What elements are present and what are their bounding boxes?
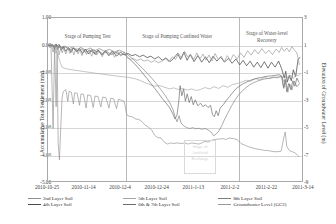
y-tick-right: -7 (304, 152, 308, 158)
y-tick-right: -5 (304, 124, 308, 130)
x-tick: 2010-12-24 (145, 184, 169, 190)
y-tick-right: 3 (304, 14, 307, 20)
series-line (48, 44, 299, 64)
series-line (48, 44, 300, 82)
x-tick: 2010-12-4 (109, 184, 131, 190)
stage-annotation: Stage of Pumping Test (65, 33, 111, 39)
legend-label: 8th Layer Soil (233, 196, 262, 201)
legend-item[interactable]: 5th Layer Soil (123, 196, 218, 201)
legend-swatch (123, 204, 136, 205)
x-tick: 2010-10-25 (35, 184, 59, 190)
legend-item[interactable]: 2nd Layer Soil (28, 196, 123, 201)
stage-annotation: Stage of Water-level Recovery (238, 30, 296, 43)
legend-swatch (28, 204, 41, 205)
legend-label: 4th Layer Soil (43, 202, 72, 207)
chart-legend: 2nd Layer Soil5th Layer Soil8th Layer So… (28, 196, 328, 207)
x-tick: 2011-3-14 (292, 184, 313, 190)
legend-label: 2nd Layer Soil (43, 196, 73, 201)
series-line (48, 45, 300, 91)
legend-item[interactable]: Groundwater Level (GC2) (218, 202, 328, 207)
x-tick: 2011-2-2 (220, 184, 239, 190)
y-tick-right: -1 (304, 69, 308, 75)
legend-swatch (123, 198, 136, 199)
y-axis-right-title: Elevation of Groundwater Level (m) (321, 63, 327, 144)
chart-figure: Accumulative Total Settlement (mm) Eleva… (0, 0, 336, 224)
legend-item[interactable]: 6th & 7th Layer Soil (123, 202, 218, 207)
plot-area: Stage of Artificial Recharge Stage of Pu… (47, 17, 303, 182)
series-line (48, 45, 299, 160)
y-tick-right: 1 (304, 42, 307, 48)
x-tick: 2010-11-14 (72, 184, 96, 190)
series-line (48, 44, 299, 118)
legend-item[interactable]: 8th Layer Soil (218, 196, 328, 201)
artificial-recharge-label: Stage of Artificial Recharge (184, 144, 216, 162)
legend-item[interactable]: 4th Layer Soil (28, 202, 123, 207)
legend-label: 5th Layer Soil (138, 196, 167, 201)
x-tick: 2011-1-13 (183, 184, 204, 190)
x-tick: 2011-2-22 (256, 184, 277, 190)
legend-swatch (218, 204, 231, 205)
stage-annotation: Stage of Pumping Confined Water (142, 33, 212, 39)
legend-swatch (28, 198, 41, 199)
y-tick-right: -3 (304, 97, 308, 103)
legend-swatch (218, 198, 231, 199)
legend-label: Groundwater Level (GC2) (233, 202, 286, 207)
legend-label: 6th & 7th Layer Soil (138, 202, 179, 207)
y-axis-left-title: Accumulative Total Settlement (mm) (40, 71, 46, 153)
